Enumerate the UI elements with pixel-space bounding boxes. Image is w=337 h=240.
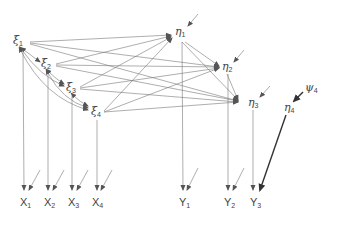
x3-label: X3 bbox=[68, 197, 79, 209]
x2-label: X2 bbox=[44, 197, 55, 209]
y3-label: Y3 bbox=[250, 197, 261, 209]
y1-label: Y1 bbox=[179, 197, 190, 209]
x4-label: X4 bbox=[92, 197, 103, 209]
xi3-label: ξ3 bbox=[66, 82, 76, 94]
eta4-paths bbox=[260, 92, 303, 190]
xi2-label: ξ2 bbox=[41, 58, 51, 70]
xi-correlations bbox=[21, 50, 88, 110]
structural-paths bbox=[30, 35, 238, 112]
measurement-paths bbox=[23, 42, 253, 190]
y2-label: Y2 bbox=[224, 197, 235, 209]
xi4-label: ξ4 bbox=[91, 106, 101, 118]
eta1-label: η1 bbox=[175, 26, 186, 38]
eta2-label: η2 bbox=[222, 61, 233, 73]
x1-label: X1 bbox=[20, 197, 31, 209]
xi1-label: ξ1 bbox=[13, 35, 23, 47]
eta4-label: η4 bbox=[284, 102, 295, 114]
psi4-label: ψ4 bbox=[305, 82, 318, 94]
eta3-label: η3 bbox=[248, 97, 259, 109]
